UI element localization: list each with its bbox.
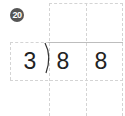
answer-box-ones[interactable] (86, 3, 123, 42)
divisor: 3 (15, 50, 45, 73)
work-box-tens[interactable] (49, 81, 86, 116)
problem-number-badge: 20 (10, 8, 24, 22)
work-box-ones[interactable] (86, 81, 123, 116)
answer-box-tens[interactable] (49, 3, 86, 42)
grid-line-divisor-left (10, 42, 11, 80)
division-bar (48, 42, 123, 43)
dividend-digit-ones: 8 (86, 50, 116, 73)
dividend-digit-tens: 8 (48, 50, 78, 73)
